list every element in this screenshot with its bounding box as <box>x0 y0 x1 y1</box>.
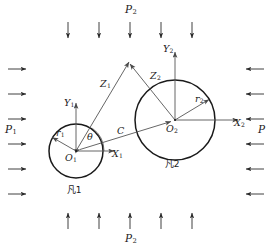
body2-origin-dot <box>174 119 176 121</box>
load-label-top: P2 <box>125 4 137 16</box>
body1-contact-vector <box>76 62 129 151</box>
load-arrows-bottom <box>68 213 192 229</box>
center-distance-label: C <box>117 126 124 136</box>
figure-canvas: P2 P2 P1 P O1 X1 Y1 r1 Z1 θ 凡1 O2 X2 Y2 … <box>0 0 272 252</box>
body2-origin-label: O2 <box>166 124 178 134</box>
load-label-left: P1 <box>5 124 17 136</box>
center-distance-line <box>80 122 171 150</box>
body2-name-label: 凡2 <box>165 160 179 169</box>
body2-radius-label: r2 <box>195 94 204 104</box>
body1-x-axis-label: X1 <box>112 149 123 159</box>
diagram-svg <box>0 0 272 252</box>
body1-name-label: 凡1 <box>67 186 81 195</box>
body2-contact-vector-label: Z2 <box>150 71 161 81</box>
body1-origin-label: O1 <box>65 153 77 163</box>
body2-radius-vector <box>175 100 209 121</box>
body1-radius-vector <box>53 138 77 152</box>
load-arrows-top <box>68 22 192 38</box>
body1-y-axis-label: Y1 <box>64 98 74 108</box>
body1-origin-dot <box>75 150 77 152</box>
body1-contact-vector-label: Z1 <box>100 79 111 89</box>
body2-x-axis-label: X2 <box>234 118 245 128</box>
load-label-bottom: P2 <box>125 233 137 245</box>
body1-radius-label: r1 <box>56 128 65 138</box>
load-label-right: P <box>258 124 265 136</box>
body2-y-axis-label: Y2 <box>163 44 173 54</box>
angle-label: θ <box>87 132 93 142</box>
